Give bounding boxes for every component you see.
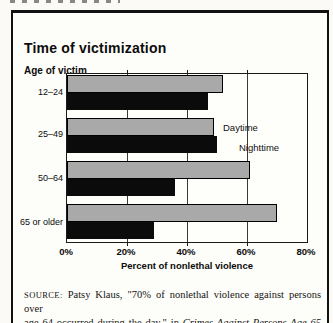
nighttime-bar-12-24 (67, 93, 208, 111)
source-line-1: SOURCE: Patsy Klaus, "70% of nonlethal v… (24, 288, 321, 316)
plot-area: Daytime Nighttime (66, 73, 308, 243)
bar-group-50-64 (67, 161, 307, 196)
x-tick-0: 0% (44, 246, 88, 257)
nighttime-bar-65-older (67, 222, 154, 240)
cropped-text-remnant (10, 0, 120, 3)
axis-tick-top-20 (127, 70, 128, 74)
x-tick-20: 20% (104, 246, 148, 257)
nighttime-bar-50-64 (67, 179, 175, 197)
chart-title: Time of victimization (24, 40, 166, 56)
legend-label-nighttime: Nighttime (239, 142, 279, 153)
daytime-bar-12-24 (67, 75, 223, 93)
x-tick-40: 40% (164, 246, 208, 257)
figure-box: Time of victimization Age of victim 12–2… (11, 10, 329, 323)
category-label-12-24: 12–24 (18, 87, 63, 97)
nighttime-bar-25-49 (67, 136, 217, 154)
source-note: SOURCE: Patsy Klaus, "70% of nonlethal v… (24, 288, 321, 323)
category-label-50-64: 50–64 (18, 173, 63, 183)
x-axis-title: Percent of nonlethal violence (66, 260, 308, 271)
bar-group-65-older (67, 204, 307, 239)
source-label: SOURCE: (24, 290, 63, 300)
bar-group-12-24 (67, 75, 307, 110)
source-line-2: age 64 occurred during the day," in Crim… (24, 316, 321, 323)
figure-page: Time of victimization Age of victim 12–2… (0, 0, 333, 323)
legend-label-daytime: Daytime (223, 122, 258, 133)
axis-tick-top-60 (247, 70, 248, 74)
x-tick-60: 60% (224, 246, 268, 257)
category-label-25-49: 25–49 (18, 129, 63, 139)
daytime-bar-50-64 (67, 161, 250, 179)
axis-tick-top-40 (187, 70, 188, 74)
daytime-bar-65-older (67, 204, 277, 222)
x-tick-80: 80% (284, 246, 328, 257)
category-label-65-older: 65 or older (18, 217, 63, 227)
daytime-bar-25-49 (67, 118, 214, 136)
